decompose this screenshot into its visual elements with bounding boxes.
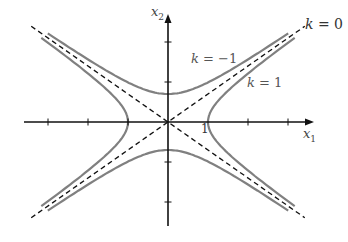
tick-label-one: 1 [201, 122, 209, 136]
label-k-0: k = 0 [305, 16, 343, 32]
plot-canvas [0, 0, 348, 242]
x2-axis-label: x2 [151, 4, 164, 22]
hyperbola-diagram: x2 x1 1 k = 0 k = −1 k = 1 [0, 0, 348, 242]
label-k-minus-1: k = −1 [191, 51, 237, 66]
x2-axis-arrow-icon [165, 14, 172, 23]
label-k-1: k = 1 [247, 75, 282, 90]
x1-axis-label: x1 [303, 126, 316, 144]
x1-axis-arrow-icon [305, 119, 314, 126]
